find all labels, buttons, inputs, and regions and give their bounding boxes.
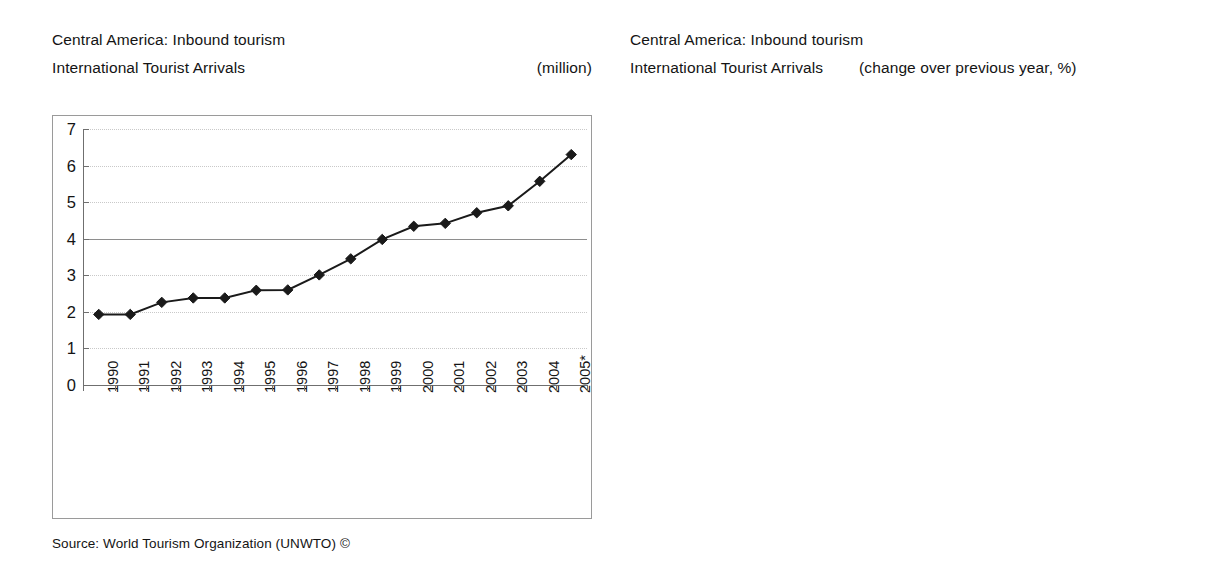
- x-tick-11: [430, 385, 431, 391]
- y-axis-label-6: 6: [67, 156, 76, 175]
- data-point-1996: [283, 285, 293, 295]
- data-point-1992: [157, 297, 167, 307]
- x-tick-14: [524, 385, 525, 391]
- left-plot-frame: 0123456719901991199219931994199519961997…: [52, 115, 592, 519]
- x-tick-9: [367, 385, 368, 391]
- y-axis-label-4: 4: [67, 229, 76, 248]
- x-tick-12: [461, 385, 462, 391]
- x-tick-0: [83, 385, 84, 391]
- data-point-2002: [472, 208, 482, 218]
- x-tick-end: [587, 385, 588, 391]
- data-point-1991: [125, 309, 135, 319]
- data-point-1997: [314, 270, 324, 280]
- x-tick-15: [556, 385, 557, 391]
- left-chart-subtitle: International Tourist Arrivals: [52, 58, 245, 77]
- data-point-2000: [409, 221, 419, 231]
- data-point-1995: [251, 285, 261, 295]
- right-chart-panel: Central America: Inbound tourism Interna…: [602, 0, 1205, 585]
- y-axis-label-5: 5: [67, 193, 76, 212]
- data-point-2001: [440, 218, 450, 228]
- x-tick-1: [115, 385, 116, 391]
- data-point-1998: [346, 254, 356, 264]
- right-chart-unit: (change over previous year, %): [859, 58, 1077, 77]
- y-axis-label-0: 0: [67, 376, 76, 395]
- x-tick-2: [146, 385, 147, 391]
- x-tick-10: [398, 385, 399, 391]
- y-axis-label-1: 1: [67, 339, 76, 358]
- left-chart-subtitle-row: International Tourist Arrivals (million): [52, 58, 592, 77]
- data-point-1994: [220, 293, 230, 303]
- data-point-1993: [188, 293, 198, 303]
- x-tick-7: [304, 385, 305, 391]
- chart-page: Central America: Inbound tourism Interna…: [0, 0, 1205, 585]
- y-axis-label-2: 2: [67, 302, 76, 321]
- x-tick-8: [335, 385, 336, 391]
- x-tick-13: [493, 385, 494, 391]
- x-tick-4: [209, 385, 210, 391]
- x-tick-3: [178, 385, 179, 391]
- left-chart-panel: Central America: Inbound tourism Interna…: [0, 0, 602, 585]
- left-chart-header: Central America: Inbound tourism Interna…: [52, 30, 592, 77]
- right-chart-subtitle-row: International Tourist Arrivals (change o…: [630, 58, 1190, 77]
- x-tick-6: [272, 385, 273, 391]
- left-source-note: Source: World Tourism Organization (UNWT…: [52, 536, 350, 551]
- right-chart-subtitle: International Tourist Arrivals: [630, 58, 823, 77]
- line-series-arrivals: [83, 129, 587, 385]
- right-chart-title: Central America: Inbound tourism: [630, 30, 1190, 49]
- left-chart-title: Central America: Inbound tourism: [52, 30, 592, 49]
- left-chart-unit: (million): [537, 58, 592, 77]
- y-axis-label-3: 3: [67, 266, 76, 285]
- right-chart-header: Central America: Inbound tourism Interna…: [630, 30, 1190, 77]
- y-axis-label-7: 7: [67, 120, 76, 139]
- data-point-1990: [94, 309, 104, 319]
- left-plot-area: 0123456719901991199219931994199519961997…: [83, 129, 587, 385]
- x-tick-5: [241, 385, 242, 391]
- data-point-1999: [377, 234, 387, 244]
